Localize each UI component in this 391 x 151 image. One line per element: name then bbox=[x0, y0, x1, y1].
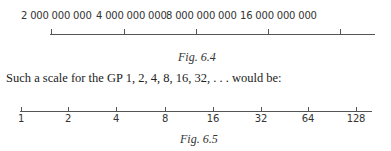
fig-6-4-tick bbox=[268, 29, 269, 35]
fig-6-5-tick bbox=[308, 107, 309, 112]
fig-6-4-tick bbox=[340, 29, 341, 35]
fig-6-5-caption: Fig. 6.5 bbox=[180, 132, 218, 147]
fig-6-5-label: 128 bbox=[347, 113, 366, 124]
fig-6-5-tick bbox=[68, 107, 69, 112]
fig-6-5-axis-line bbox=[20, 111, 372, 112]
fig-6-5-tick bbox=[21, 107, 22, 112]
fig-6-5-tick bbox=[213, 107, 214, 112]
fig-6-4-tick bbox=[124, 29, 125, 35]
fig-6-5-label: 2 bbox=[65, 113, 71, 124]
fig-6-5-tick bbox=[165, 107, 166, 112]
fig-6-5-label: 16 bbox=[207, 113, 219, 124]
fig-6-5-tick bbox=[261, 107, 262, 112]
fig-6-5-label: 4 bbox=[113, 113, 119, 124]
fig-6-4-caption: Fig. 6.4 bbox=[178, 50, 216, 65]
fig-6-5-tick bbox=[116, 107, 117, 112]
fig-6-5-label: 32 bbox=[255, 113, 267, 124]
fig-6-5-label: 1 bbox=[18, 113, 24, 124]
fig-6-4-label-2e9: 2 000 000 000 bbox=[21, 10, 92, 21]
fig-6-4-axis-line bbox=[50, 34, 375, 35]
fig-6-4-label-4e9: 4 000 000 000 bbox=[96, 10, 167, 21]
fig-6-5-tick bbox=[356, 107, 357, 112]
fig-6-4-tick bbox=[196, 29, 197, 35]
fig-6-5-label: 8 bbox=[162, 113, 168, 124]
fig-6-4-label-16e9: 16 000 000 000 bbox=[240, 10, 317, 21]
fig-6-5-label: 64 bbox=[302, 113, 314, 124]
body-text: Such a scale for the GP 1, 2, 4, 8, 16, … bbox=[6, 71, 282, 86]
fig-6-4-tick bbox=[51, 29, 52, 35]
fig-6-4-label-8e9: 8 000 000 000 bbox=[166, 10, 237, 21]
